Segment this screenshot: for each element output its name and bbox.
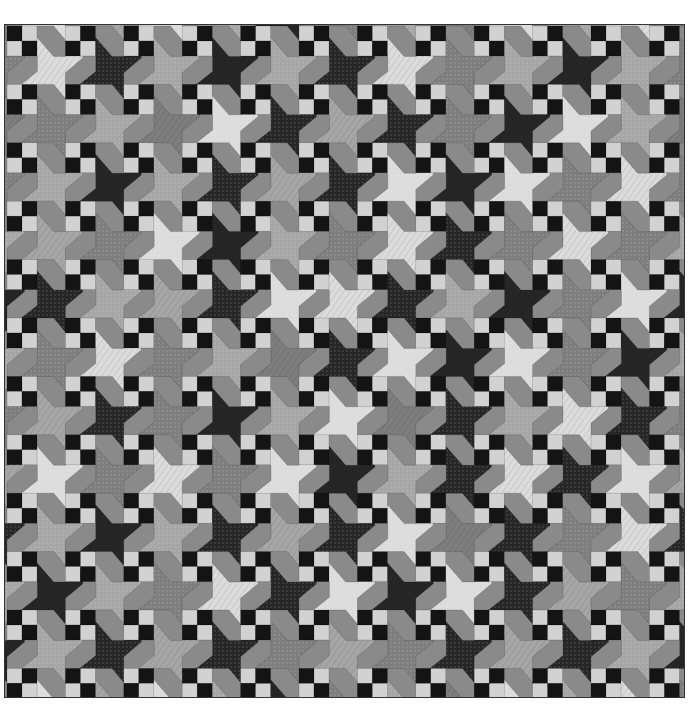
light-square <box>80 552 95 567</box>
dark-square <box>606 552 621 567</box>
light-square <box>489 610 504 625</box>
light-square <box>474 508 489 523</box>
light-square <box>372 333 387 348</box>
four-patch-block <box>649 493 679 523</box>
light-square <box>314 201 329 216</box>
four-patch-block <box>182 26 212 56</box>
light-square <box>22 493 37 508</box>
dark-square <box>372 435 387 450</box>
dark-square <box>533 391 548 406</box>
light-square <box>649 376 664 391</box>
dark-square <box>372 318 387 333</box>
light-square <box>533 216 548 231</box>
light-square <box>533 376 548 391</box>
dark-square <box>256 435 271 450</box>
light-square <box>299 333 314 348</box>
dark-square <box>489 41 504 56</box>
light-square <box>372 610 387 625</box>
dark-square <box>65 275 80 290</box>
light-square <box>65 99 80 114</box>
dark-square <box>649 391 664 406</box>
four-patch-block <box>124 143 154 173</box>
dark-square <box>664 610 679 625</box>
four-patch-block <box>357 26 387 56</box>
light-square <box>431 552 446 567</box>
four-patch-block <box>649 26 679 56</box>
dark-square <box>533 552 548 567</box>
dark-square <box>416 41 431 56</box>
light-square <box>357 552 372 567</box>
light-square <box>241 552 256 567</box>
dark-square <box>182 508 197 523</box>
light-square <box>606 143 621 158</box>
light-square <box>7 435 22 450</box>
dark-square <box>241 376 256 391</box>
dark-square <box>241 683 256 697</box>
light-square <box>124 435 139 450</box>
light-square <box>139 99 154 114</box>
dark-square <box>357 493 372 508</box>
dark-square <box>197 216 212 231</box>
dark-square <box>357 143 372 158</box>
dark-square <box>256 391 271 406</box>
four-patch-block <box>182 493 212 523</box>
light-square <box>533 143 548 158</box>
dark-square <box>197 99 212 114</box>
light-square <box>416 610 431 625</box>
dark-square <box>197 143 212 158</box>
light-square <box>372 493 387 508</box>
light-square <box>197 158 212 173</box>
four-patch-block <box>182 318 212 348</box>
dark-square <box>124 376 139 391</box>
light-square <box>80 84 95 99</box>
dark-square <box>606 318 621 333</box>
dark-square <box>7 610 22 625</box>
dark-square <box>80 99 95 114</box>
light-square <box>299 143 314 158</box>
dark-square <box>548 216 563 231</box>
four-patch-block <box>7 668 37 697</box>
dark-square <box>474 683 489 697</box>
light-square <box>7 275 22 290</box>
light-square <box>314 391 329 406</box>
light-square <box>197 275 212 290</box>
light-square <box>591 668 606 683</box>
light-square <box>7 668 22 683</box>
dark-square <box>431 26 446 41</box>
light-square <box>241 625 256 640</box>
four-patch-block <box>7 318 37 348</box>
dark-square <box>80 683 95 697</box>
light-square <box>474 435 489 450</box>
dark-square <box>65 668 80 683</box>
dark-square <box>606 158 621 173</box>
dark-square <box>489 158 504 173</box>
light-square <box>664 435 679 450</box>
dark-square <box>197 567 212 582</box>
light-square <box>80 435 95 450</box>
dark-square <box>65 41 80 56</box>
dark-square <box>7 567 22 582</box>
light-square <box>65 216 80 231</box>
four-patch-block <box>533 435 563 465</box>
dark-square <box>314 683 329 697</box>
four-patch-block <box>533 610 563 640</box>
light-square <box>533 493 548 508</box>
dark-square <box>489 391 504 406</box>
dark-square <box>548 260 563 275</box>
four-patch-block <box>474 84 504 114</box>
four-patch-block <box>591 318 621 348</box>
dark-square <box>664 260 679 275</box>
light-square <box>65 333 80 348</box>
dark-square <box>182 391 197 406</box>
dark-square <box>431 333 446 348</box>
dark-square <box>124 333 139 348</box>
light-square <box>372 99 387 114</box>
light-square <box>606 610 621 625</box>
light-square <box>416 493 431 508</box>
dark-square <box>357 450 372 465</box>
light-square <box>182 99 197 114</box>
light-square <box>416 567 431 582</box>
dark-square <box>182 84 197 99</box>
light-square <box>548 508 563 523</box>
four-patch-block <box>65 376 95 406</box>
